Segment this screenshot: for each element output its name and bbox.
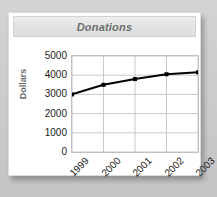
x-tick-label: 1999 bbox=[59, 155, 91, 187]
y-tick-label: 3000 bbox=[31, 89, 67, 99]
vertical-gridlines bbox=[72, 56, 198, 152]
chart-card: Donations Dollars 500040003000200010000 … bbox=[8, 12, 201, 176]
chart-plot-region: Dollars 500040003000200010000 1999200020… bbox=[9, 39, 200, 175]
screenshot-root: Donations Dollars 500040003000200010000 … bbox=[0, 0, 217, 197]
page-title: Donations bbox=[77, 21, 133, 33]
plot-area bbox=[71, 55, 199, 153]
x-tick-label: 2000 bbox=[90, 155, 122, 187]
x-tick-label: 2003 bbox=[185, 155, 217, 187]
y-tick-label: 1000 bbox=[31, 128, 67, 138]
y-tick-label: 4000 bbox=[31, 70, 67, 80]
y-tick-label: 2000 bbox=[31, 109, 67, 119]
x-tick-label: 2001 bbox=[122, 155, 154, 187]
chart-title-bar: Donations bbox=[13, 16, 196, 37]
y-tick-label: 5000 bbox=[31, 51, 67, 61]
line-chart-svg bbox=[72, 56, 198, 152]
x-axis-ticks: 19992000200120022003 bbox=[71, 155, 199, 195]
y-tick-label: 0 bbox=[31, 147, 67, 157]
x-tick-label: 2002 bbox=[153, 155, 185, 187]
y-axis-ticks: 500040003000200010000 bbox=[31, 55, 67, 153]
y-axis-label: Dollars bbox=[18, 56, 28, 112]
